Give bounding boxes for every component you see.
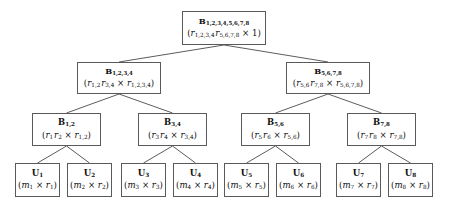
node-expression-b1234: (r1,2 r3,4 × r1,2,3,4) [84,79,154,89]
node-label-b78: B7,8 [373,118,390,128]
tree-node-b5678: B5,6,7,8(r5,6 r7,8 × r5,6,7,8) [286,62,370,94]
tree-node-u7: U7(m7 × r7) [336,163,381,197]
tree-node-u3: U3(m3 × r3) [121,163,166,197]
node-expression-b12: (r1 r2 × r1,2) [42,131,91,141]
node-label-b34: B3,4 [164,118,181,128]
edge-b5678-b78 [328,94,382,113]
node-label-b12: B1,2 [58,118,75,128]
edge-b12-u1 [38,146,67,163]
node-expression-u7: (m7 × r7) [339,181,378,191]
edge-b78-u7 [359,146,382,163]
node-label-u3: U3 [138,169,150,179]
node-expression-u6: (m6 × r6) [279,181,318,191]
node-label-u1: U1 [32,169,44,179]
tree-node-b34: B3,4(r3 r4 × r3,4) [138,113,207,146]
edge-root-b5678 [224,45,328,62]
tree-node-u5: U5(m5 × r5) [224,163,269,197]
tree-node-b12: B1,2(r1 r2 × r1,2) [32,113,101,146]
edge-root-b1234 [119,45,224,62]
node-expression-b78: (r7 r8 × r7,8) [357,131,406,141]
node-expression-b56: (r5 r6 × r5,6) [251,131,300,141]
edge-b12-u2 [67,146,90,163]
node-label-u2: U2 [84,169,96,179]
node-expression-b34: (r3 r4 × r3,4) [148,131,197,141]
edge-b56-u5 [247,146,276,163]
node-expression-u3: (m3 × r3) [124,181,163,191]
tree-node-root: B1,2,3,4,5,6,7,8(r1,2,3,4 r5,6,7,8 × 1) [182,11,266,45]
node-label-u4: U4 [190,169,202,179]
edge-b78-u8 [382,146,411,163]
edge-b5678-b56 [276,94,329,113]
tree-node-b78: B7,8(r7 r8 × r7,8) [347,113,416,146]
tree-node-u8: U8(m8 × r8) [388,163,433,197]
node-label-u8: U8 [405,169,417,179]
edge-b34-u3 [144,146,173,163]
node-expression-u4: (m4 × r4) [176,181,215,191]
node-label-b5678: B5,6,7,8 [314,67,342,77]
tree-node-u4: U4(m4 × r4) [173,163,218,197]
node-label-root: B1,2,3,4,5,6,7,8 [199,17,249,27]
node-label-u6: U6 [293,169,305,179]
tree-node-u1: U1(m1 × r1) [15,163,60,197]
node-label-u7: U7 [353,169,365,179]
node-expression-u8: (m8 × r8) [391,181,430,191]
edge-b1234-b34 [119,94,173,113]
edge-b1234-b12 [67,94,120,113]
node-expression-u2: (m2 × r2) [70,181,109,191]
diagram-canvas: B1,2,3,4,5,6,7,8(r1,2,3,4 r5,6,7,8 × 1)B… [0,0,451,207]
node-label-b56: B5,6 [267,118,284,128]
node-expression-root: (r1,2,3,4 r5,6,7,8 × 1) [187,29,261,39]
tree-node-u2: U2(m2 × r2) [67,163,112,197]
node-label-u5: U5 [241,169,253,179]
edge-b34-u4 [173,146,196,163]
node-label-b1234: B1,2,3,4 [105,67,133,77]
edge-b56-u6 [276,146,299,163]
node-expression-u1: (m1 × r1) [18,181,57,191]
tree-node-u6: U6(m6 × r6) [276,163,321,197]
tree-node-b1234: B1,2,3,4(r1,2 r3,4 × r1,2,3,4) [77,62,161,94]
node-expression-u5: (m5 × r5) [227,181,266,191]
node-expression-b5678: (r5,6 r7,8 × r5,6,7,8) [293,79,363,89]
tree-node-b56: B5,6(r5 r6 × r5,6) [241,113,310,146]
